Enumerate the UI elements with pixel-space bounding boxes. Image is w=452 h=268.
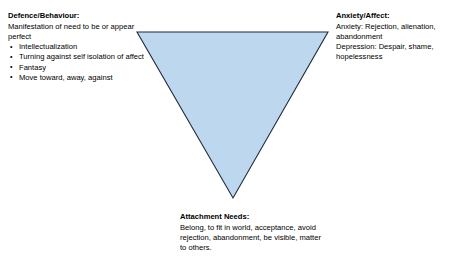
list-item: Intellectualization — [8, 42, 156, 52]
defence-behaviour-block: Defence/Behaviour: Manifestation of need… — [8, 11, 156, 83]
anxiety-affect-heading: Anxiety/Affect: — [336, 11, 448, 21]
list-item: Turning against self isolation of affect — [8, 52, 156, 62]
attachment-needs-paragraph: Belong, to fit in world, acceptance, avo… — [180, 223, 322, 254]
list-item: Fantasy — [8, 63, 156, 73]
diagram-canvas: Defence/Behaviour: Manifestation of need… — [0, 0, 452, 268]
anxiety-affect-block: Anxiety/Affect: Anxiety: Rejection, alie… — [336, 11, 448, 63]
defence-behaviour-paragraph: Manifestation of need to be or appear pe… — [8, 22, 156, 42]
list-item: Move toward, away, against — [8, 73, 156, 83]
defence-behaviour-heading: Defence/Behaviour: — [8, 11, 156, 21]
inverted-triangle-shape — [137, 32, 328, 198]
anxiety-affect-line-2: Depression: Despair, shame, hopelessness — [336, 42, 448, 62]
anxiety-affect-line-1: Anxiety: Rejection, alienation, abandonm… — [336, 22, 448, 42]
attachment-needs-block: Attachment Needs: Belong, to fit in worl… — [180, 212, 322, 253]
attachment-needs-heading: Attachment Needs: — [180, 212, 322, 222]
defence-behaviour-bullet-list: Intellectualization Turning against self… — [8, 42, 156, 83]
